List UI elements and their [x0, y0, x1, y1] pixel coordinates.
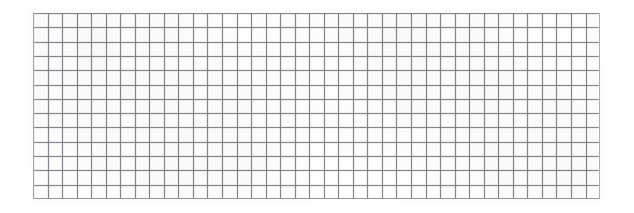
- grid-border-bottom: [33, 198, 600, 199]
- grid-lines-soft-pass: [33, 13, 600, 199]
- grid-canvas: [0, 0, 634, 213]
- grid-border-right: [599, 13, 600, 199]
- grid-plate: [33, 13, 600, 199]
